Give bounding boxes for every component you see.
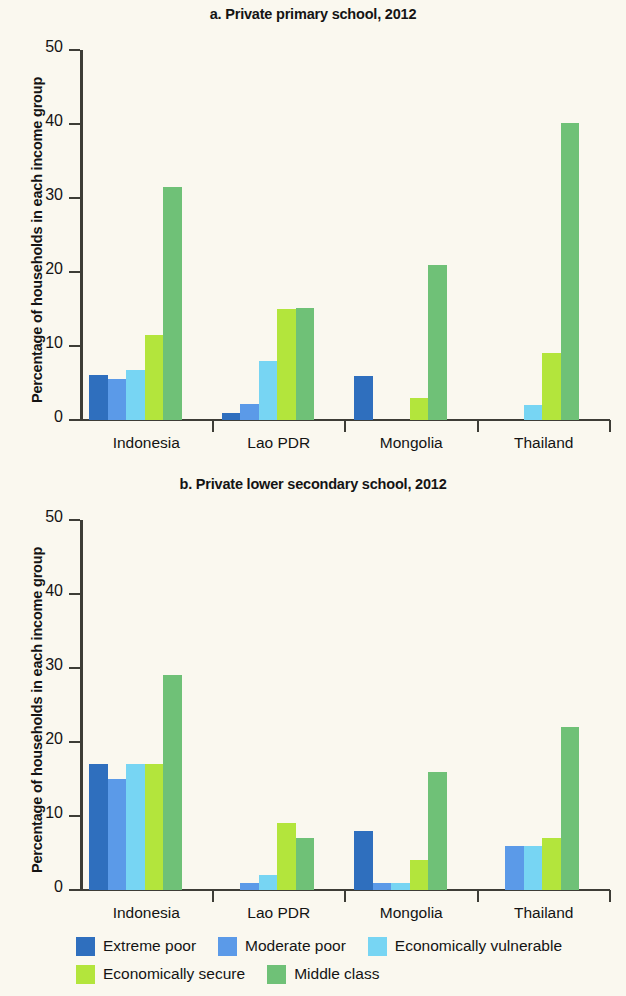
bar	[240, 404, 259, 420]
panel-a-y-axis-line	[80, 50, 83, 420]
bar	[277, 309, 296, 420]
bar	[505, 846, 524, 890]
panel-a-y-axis-label: Percentage of households in each income …	[29, 45, 45, 435]
bar	[222, 413, 241, 420]
legend-swatch	[218, 937, 237, 956]
chart-panel-b: b. Private lower secondary school, 2012 …	[0, 470, 626, 925]
y-axis-tick-label: 10	[45, 334, 63, 352]
bar	[410, 860, 429, 890]
x-axis-group-tick	[609, 890, 611, 902]
y-axis-tick: 0	[69, 889, 80, 891]
x-axis-category-label: Lao PDR	[247, 904, 310, 922]
y-axis-tick-label: 20	[45, 730, 63, 748]
x-axis-category-label: Thailand	[514, 434, 573, 452]
legend-swatch	[76, 965, 95, 984]
y-axis-tick: 20	[69, 271, 80, 273]
x-axis-category-label: Thailand	[514, 904, 573, 922]
figure: a. Private primary school, 2012 Percenta…	[0, 0, 626, 996]
panel-b-plot-area: 01020304050IndonesiaLao PDRMongoliaThail…	[80, 520, 610, 890]
legend-label: Extreme poor	[103, 937, 196, 955]
x-axis-category-label: Mongolia	[380, 434, 443, 452]
bar	[259, 875, 278, 890]
bar	[410, 398, 429, 420]
legend-item: Moderate poor	[218, 937, 346, 956]
bar	[561, 727, 580, 890]
legend-item: Economically vulnerable	[368, 937, 562, 956]
panel-a-plot-area: 01020304050IndonesiaLao PDRMongoliaThail…	[80, 50, 610, 420]
bar	[354, 376, 373, 420]
bar	[373, 883, 392, 890]
bar	[428, 772, 447, 890]
bar	[391, 883, 410, 890]
legend-item: Middle class	[267, 965, 379, 984]
x-axis-group-tick	[212, 890, 214, 902]
y-axis-tick-label: 40	[45, 112, 63, 130]
y-axis-tick: 50	[69, 519, 80, 521]
y-axis-tick: 10	[69, 345, 80, 347]
y-axis-tick-label: 0	[54, 878, 63, 896]
bar	[163, 675, 182, 890]
legend-label: Economically vulnerable	[395, 937, 562, 955]
bar	[277, 823, 296, 890]
y-axis-tick: 10	[69, 815, 80, 817]
panel-b-y-axis-line	[80, 520, 83, 890]
panel-b-y-axis-label: Percentage of households in each income …	[29, 515, 45, 905]
bar	[240, 883, 259, 890]
y-axis-tick-label: 20	[45, 260, 63, 278]
bar	[126, 370, 145, 420]
y-axis-tick-label: 40	[45, 582, 63, 600]
x-axis-group-tick	[344, 890, 346, 902]
bar	[524, 405, 543, 420]
legend-label: Economically secure	[103, 965, 245, 983]
legend-item: Economically secure	[76, 965, 245, 984]
y-axis-tick-label: 30	[45, 186, 63, 204]
y-axis-tick-label: 30	[45, 656, 63, 674]
x-axis-group-tick	[212, 420, 214, 432]
chart-panel-a: a. Private primary school, 2012 Percenta…	[0, 0, 626, 470]
y-axis-tick: 20	[69, 741, 80, 743]
y-axis-tick-label: 0	[54, 408, 63, 426]
bar	[108, 779, 127, 890]
bar	[259, 361, 278, 420]
bar	[542, 838, 561, 890]
legend-label: Moderate poor	[245, 937, 346, 955]
x-axis-group-tick	[477, 420, 479, 432]
y-axis-tick: 40	[69, 593, 80, 595]
bar	[542, 353, 561, 420]
bar	[561, 123, 580, 420]
x-axis-category-label: Indonesia	[113, 434, 180, 452]
bar	[145, 764, 164, 890]
x-axis-group-tick	[477, 890, 479, 902]
y-axis-tick: 30	[69, 667, 80, 669]
legend-row: Extreme poorModerate poorEconomically vu…	[0, 933, 626, 959]
y-axis-tick-label: 10	[45, 804, 63, 822]
x-axis-group-tick	[344, 420, 346, 432]
y-axis-tick: 50	[69, 49, 80, 51]
bar	[89, 764, 108, 890]
bar	[354, 831, 373, 890]
legend-row: Economically secureMiddle class	[0, 961, 626, 987]
legend-swatch	[267, 965, 286, 984]
bar	[163, 187, 182, 420]
bar	[89, 375, 108, 420]
x-axis-category-label: Lao PDR	[247, 434, 310, 452]
legend-item: Extreme poor	[76, 937, 196, 956]
x-axis-category-label: Mongolia	[380, 904, 443, 922]
bar	[524, 846, 543, 890]
bar	[428, 265, 447, 420]
x-axis-category-label: Indonesia	[113, 904, 180, 922]
y-axis-tick: 40	[69, 123, 80, 125]
x-axis-group-tick	[609, 420, 611, 432]
y-axis-tick: 30	[69, 197, 80, 199]
bar	[145, 335, 164, 420]
y-axis-tick-label: 50	[45, 508, 63, 526]
legend-swatch	[76, 937, 95, 956]
bar	[108, 379, 127, 420]
panel-b-title: b. Private lower secondary school, 2012	[0, 476, 626, 492]
legend-swatch	[368, 937, 387, 956]
bar	[296, 308, 315, 420]
y-axis-tick: 0	[69, 419, 80, 421]
panel-a-title: a. Private primary school, 2012	[0, 6, 626, 22]
bar	[296, 838, 315, 890]
legend: Extreme poorModerate poorEconomically vu…	[0, 925, 626, 995]
